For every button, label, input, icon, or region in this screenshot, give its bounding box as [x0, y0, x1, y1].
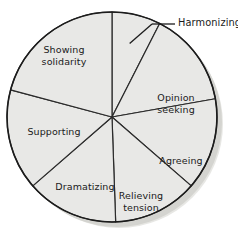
pie-sectors [7, 12, 217, 222]
pie-chart-canvas [0, 0, 238, 235]
slice-label-harmonizing: Harmonizing [178, 17, 238, 29]
pie-chart: Showing solidarity Opinion seeking Suppo… [0, 0, 238, 235]
